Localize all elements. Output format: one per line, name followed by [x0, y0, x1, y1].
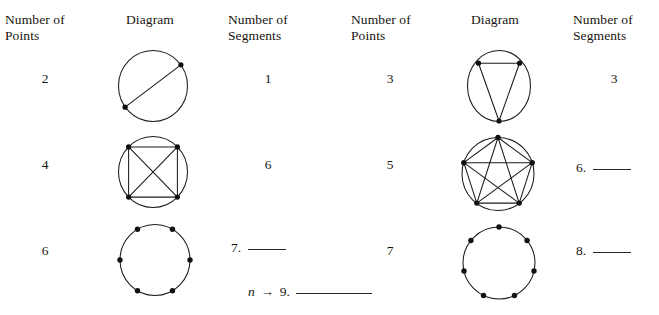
cell-points-right-row2: 5	[377, 157, 403, 172]
answer-rule-8[interactable]	[593, 252, 631, 253]
header-number-of-points-left: Number of Points	[5, 12, 65, 44]
answer-blank-9-general-case[interactable]: n → 9.	[248, 284, 372, 299]
diagram-circle-6-points	[116, 221, 194, 299]
diagram-circle-7-points	[459, 223, 539, 303]
header-number-of-segments-right: Number of Segments	[573, 12, 633, 44]
cell-points-right-row3: 7	[377, 243, 403, 258]
answer-blank-7[interactable]: 7.	[231, 240, 286, 255]
diagram-circle-4-points	[115, 134, 191, 210]
diagram-circle-5-points	[458, 134, 538, 214]
diagram-circle-2-points	[115, 48, 191, 124]
right-arrow-icon: →	[261, 284, 274, 299]
variable-n: n	[248, 284, 255, 299]
answer-rule-7[interactable]	[248, 249, 286, 250]
cell-segments-left-row1: 1	[255, 71, 281, 86]
cell-points-left-row3: 6	[32, 243, 58, 258]
cell-points-left-row1: 2	[32, 71, 58, 86]
header-number-of-segments-left: Number of Segments	[228, 12, 288, 44]
question-number-9: 9.	[280, 284, 290, 299]
header-diagram-right: Diagram	[471, 12, 519, 28]
header-diagram-left: Diagram	[126, 12, 174, 28]
cell-segments-left-row2: 6	[255, 157, 281, 172]
cell-segments-right-row1: 3	[601, 71, 627, 86]
diagram-circle-3-points	[461, 48, 537, 124]
question-number-7: 7.	[231, 240, 241, 255]
question-number-8: 8.	[576, 243, 586, 258]
question-number-6: 6.	[576, 160, 586, 175]
answer-blank-8[interactable]: 8.	[576, 243, 631, 258]
worksheet-page: Number of Points Diagram Number of Segme…	[0, 0, 659, 315]
answer-blank-6[interactable]: 6.	[576, 160, 631, 175]
header-number-of-points-right: Number of Points	[351, 12, 411, 44]
answer-rule-6[interactable]	[593, 169, 631, 170]
cell-points-left-row2: 4	[32, 157, 58, 172]
cell-points-right-row1: 3	[377, 71, 403, 86]
answer-rule-9[interactable]	[296, 293, 372, 294]
